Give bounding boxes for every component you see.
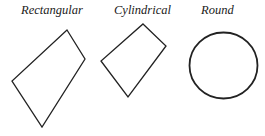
- shapes-canvas: [0, 0, 265, 136]
- rectangular-shape: [12, 30, 85, 127]
- cylindrical-shape: [101, 24, 166, 97]
- round-shape: [190, 33, 258, 99]
